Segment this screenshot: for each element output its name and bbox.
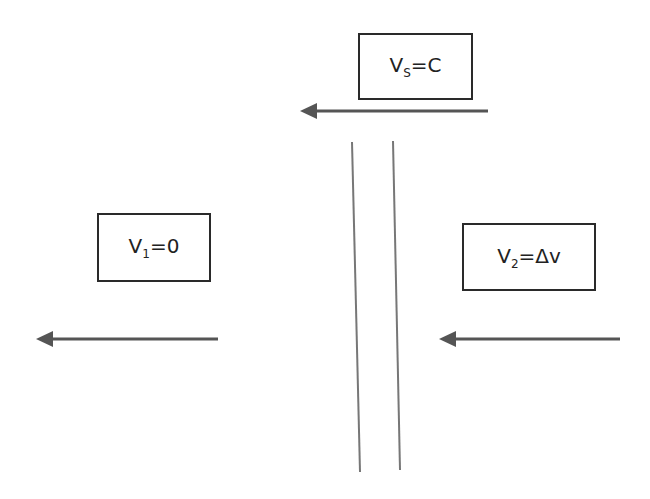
right-velocity-label: V2=Δv: [497, 244, 561, 271]
left-velocity-box: V1=0: [97, 213, 211, 282]
barrier-right-line: [393, 141, 400, 470]
barrier-left-line: [352, 142, 360, 472]
barrier-lines: [352, 141, 400, 472]
source-arrow: [300, 103, 488, 119]
left-arrow: [36, 331, 218, 347]
right-velocity-box: V2=Δv: [462, 223, 596, 291]
source-velocity-label: VS=C: [389, 53, 441, 80]
left-velocity-label: V1=0: [129, 234, 180, 261]
source-velocity-box: VS=C: [358, 33, 473, 100]
right-arrow: [439, 331, 620, 347]
